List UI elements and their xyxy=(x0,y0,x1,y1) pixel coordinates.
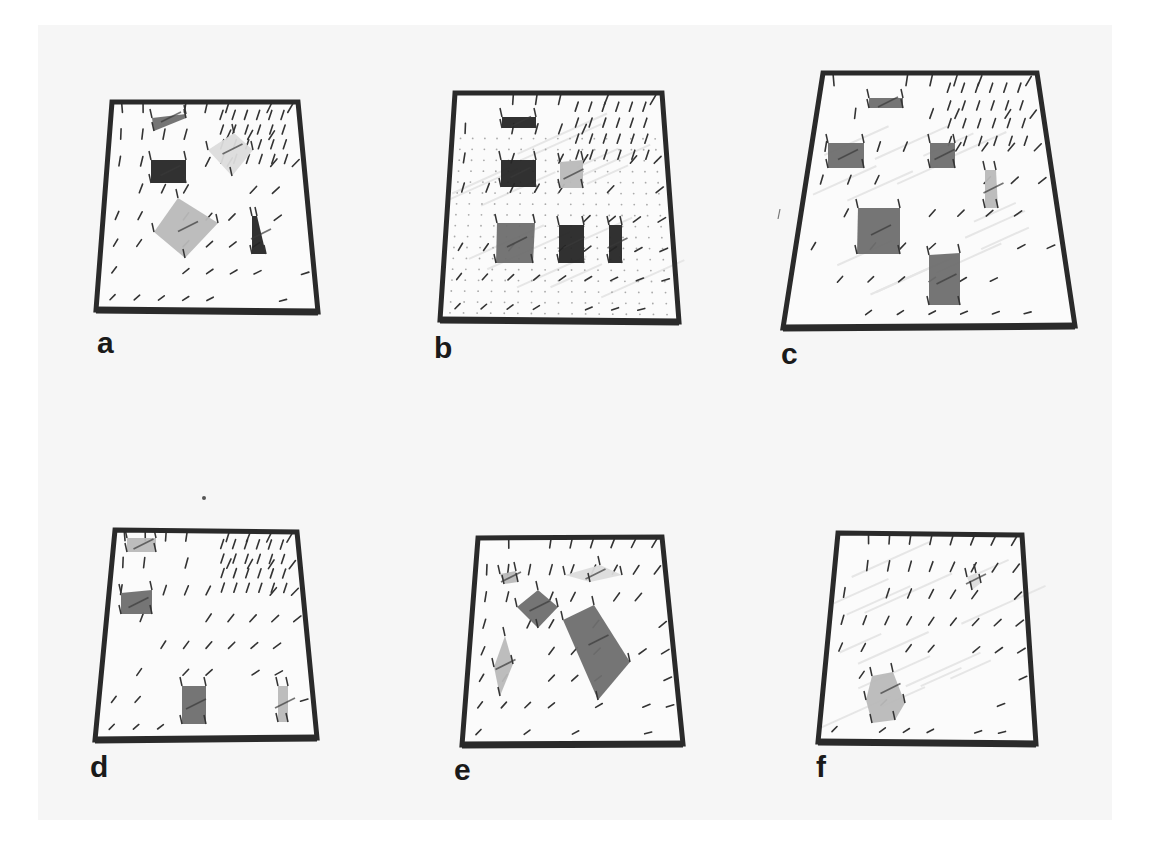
grid-dot xyxy=(479,247,481,249)
grid-dot xyxy=(458,159,460,161)
grid-dot xyxy=(612,313,614,315)
panel-e xyxy=(462,537,683,745)
grid-dot xyxy=(611,291,613,293)
grid-dot xyxy=(621,204,623,206)
grid-dot xyxy=(468,203,470,205)
grid-dot xyxy=(649,248,651,250)
grid-dot xyxy=(463,301,465,303)
panel-c xyxy=(783,73,1075,328)
grid-dot xyxy=(532,149,534,151)
grid-dot xyxy=(662,259,664,261)
grid-dot xyxy=(607,182,609,184)
grid-dot xyxy=(642,138,644,140)
grid-dot xyxy=(647,215,649,217)
grid-dot xyxy=(465,268,467,270)
grid-dot xyxy=(651,281,653,283)
grid-dot xyxy=(491,279,493,281)
grid-dot xyxy=(571,291,573,293)
grid-dot xyxy=(557,171,559,173)
panel-label-f: f xyxy=(816,752,826,782)
grid-dot xyxy=(493,236,495,238)
grid-dot xyxy=(453,247,455,249)
grid-dot xyxy=(544,302,546,304)
panel-label-b: b xyxy=(434,333,452,363)
grid-dot xyxy=(544,269,546,271)
grid-dot xyxy=(646,204,648,206)
grid-dot xyxy=(637,270,639,272)
grid-dot xyxy=(517,302,519,304)
grid-dot xyxy=(557,247,559,249)
grid-dot xyxy=(456,192,458,194)
grid-dot xyxy=(494,192,496,194)
grid-dot xyxy=(544,280,546,282)
grid-dot xyxy=(596,236,598,238)
grid-dot xyxy=(595,204,597,206)
stray-dot xyxy=(202,496,206,500)
grid-dot xyxy=(506,203,508,205)
grid-dot xyxy=(457,181,459,183)
grid-dot xyxy=(619,171,621,173)
grid-dot xyxy=(476,312,478,314)
grid-dot xyxy=(490,301,492,303)
grid-dot xyxy=(651,292,653,294)
panel-label-d: d xyxy=(90,752,108,782)
grid-dot xyxy=(632,182,634,184)
grid-dot xyxy=(557,138,559,140)
grid-dot xyxy=(598,313,600,315)
grid-dot xyxy=(660,226,662,228)
grid-dot xyxy=(666,314,668,316)
grid-dot xyxy=(607,171,609,173)
grid-dot xyxy=(557,214,559,216)
grid-dot xyxy=(656,171,658,173)
grid-dot xyxy=(532,192,534,194)
grid-dot xyxy=(530,313,532,315)
grid-dot xyxy=(624,291,626,293)
grid-dot xyxy=(519,214,521,216)
grid-dot xyxy=(653,314,655,316)
grid-dot xyxy=(481,203,483,205)
grid-dot xyxy=(495,170,497,172)
panel-f xyxy=(818,533,1046,744)
panel-b xyxy=(440,93,684,322)
grid-dot xyxy=(634,215,636,217)
needle-probe xyxy=(833,75,834,86)
stray-tick xyxy=(778,209,780,219)
grid-dot xyxy=(533,138,535,140)
grid-dot xyxy=(596,214,598,216)
grid-dot xyxy=(469,192,471,194)
grid-dot xyxy=(463,312,465,314)
grid-dot xyxy=(531,302,533,304)
grid-dot xyxy=(504,280,506,282)
grid-dot xyxy=(582,193,584,195)
grid-dot xyxy=(606,160,608,162)
grid-dot xyxy=(571,280,573,282)
grid-dot xyxy=(491,269,493,271)
grid-dot xyxy=(620,193,622,195)
grid-dot xyxy=(460,138,462,140)
panel-frame-bottom xyxy=(96,310,318,312)
grid-dot xyxy=(597,280,599,282)
grid-dot xyxy=(634,226,636,228)
grid-dot xyxy=(492,258,494,260)
grid-dot xyxy=(479,258,481,260)
grid-dot xyxy=(623,248,625,250)
grid-dot xyxy=(661,237,663,239)
grid-dot xyxy=(505,269,507,271)
panel-a xyxy=(96,102,318,312)
grid-dot xyxy=(544,236,546,238)
grid-dot xyxy=(532,203,534,205)
grid-dot xyxy=(545,160,547,162)
grid-dot xyxy=(595,193,597,195)
panel-label-c: c xyxy=(781,339,798,369)
grid-dot xyxy=(635,237,637,239)
grid-dot xyxy=(647,226,649,228)
grid-dot xyxy=(623,258,625,260)
grid-dot xyxy=(452,257,454,259)
grid-dot xyxy=(621,215,623,217)
grid-dot xyxy=(598,291,600,293)
grid-dot xyxy=(618,149,620,151)
grid-dot xyxy=(493,225,495,227)
figure-canvas xyxy=(0,0,1156,851)
grid-dot xyxy=(558,313,560,315)
panel-frame-bottom xyxy=(783,326,1075,328)
